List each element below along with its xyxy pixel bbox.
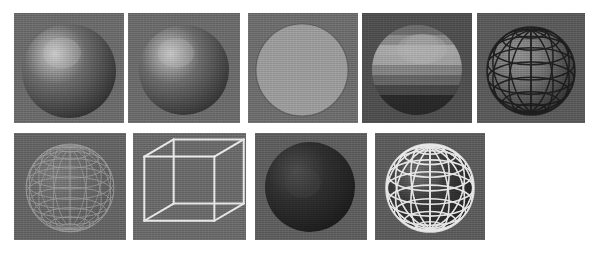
render-panel-dark-diffuse-sphere [255,133,367,240]
figure-canvas [0,0,598,255]
render-panel-dark-wireframe-overlay-sphere [477,13,585,123]
render-panel-smooth-shaded-sphere-variant [128,13,240,123]
render-panel-faceted-banded-sphere [362,13,472,123]
render-panel-dense-light-wireframe-sphere [14,133,126,240]
render-panel-smooth-shaded-sphere [14,13,124,123]
render-panel-flat-shaded-disc [248,13,358,123]
render-panel-wireframe-cube [133,133,246,240]
render-panel-bright-wireframe-globe [375,133,485,240]
